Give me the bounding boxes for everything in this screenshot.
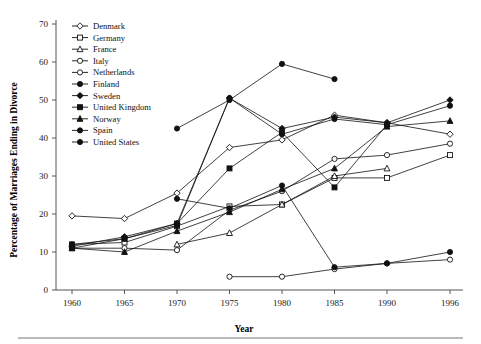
- y-tick-label: 30: [39, 171, 49, 181]
- legend-item-italy[interactable]: Italy: [72, 56, 109, 66]
- legend-marker: [77, 139, 82, 144]
- legend-item-denmark[interactable]: Denmark: [72, 21, 126, 31]
- legend-item-spain[interactable]: Spain: [72, 125, 113, 135]
- legend-item-united-kingdom[interactable]: United Kingdom: [72, 102, 151, 112]
- y-tick-label: 0: [44, 285, 49, 295]
- legend-marker: [77, 92, 83, 98]
- legend-item-germany[interactable]: Germany: [72, 33, 126, 43]
- legend-label: Norway: [93, 114, 121, 124]
- x-axis-title: Year: [235, 324, 255, 334]
- series-spain: [174, 183, 452, 270]
- legend-marker: [77, 58, 82, 63]
- legend-label: Italy: [93, 56, 109, 66]
- legend-label: Netherlands: [93, 67, 135, 77]
- legend-label: United Kingdom: [93, 102, 151, 112]
- x-tick-label: 1990: [378, 298, 397, 308]
- legend-marker: [77, 81, 82, 86]
- x-tick-label: 1970: [168, 298, 187, 308]
- y-tick-label: 60: [39, 57, 49, 67]
- legend-item-sweden[interactable]: Sweden: [72, 91, 121, 101]
- legend-marker: [77, 70, 82, 75]
- legend-label: Spain: [93, 125, 113, 135]
- legend-label: United States: [93, 137, 140, 147]
- series-germany: [70, 153, 453, 247]
- legend-label: France: [93, 44, 117, 54]
- y-axis-title: Percentage of Marriages Ending in Divorc…: [9, 82, 19, 258]
- x-tick-label: 1965: [116, 298, 135, 308]
- plot-area: [69, 61, 453, 279]
- legend-item-netherlands[interactable]: Netherlands: [72, 67, 135, 77]
- x-tick-label: 1960: [63, 298, 82, 308]
- legend-item-united-states[interactable]: United States: [72, 137, 140, 147]
- chart-legend: DenmarkGermanyFranceItalyNetherlandsFinl…: [72, 21, 151, 147]
- series-united-states: [174, 61, 337, 131]
- legend-item-norway[interactable]: Norway: [72, 114, 121, 124]
- y-tick-label: 40: [39, 133, 49, 143]
- y-tick-label: 70: [39, 19, 49, 29]
- legend-item-france[interactable]: France: [72, 44, 117, 54]
- legend-marker: [77, 128, 82, 133]
- x-tick-label: 1985: [326, 298, 345, 308]
- y-tick-label: 10: [39, 247, 49, 257]
- legend-label: Germany: [93, 33, 126, 43]
- x-tick-label: 1975: [221, 298, 240, 308]
- line-chart: 0102030405060701960196519701975198019851…: [0, 0, 481, 344]
- series-finland: [69, 96, 452, 248]
- series-italy: [227, 257, 453, 279]
- legend-marker: [78, 105, 83, 110]
- series-france: [174, 165, 390, 247]
- legend-label: Finland: [93, 79, 120, 89]
- y-tick-label: 20: [39, 209, 49, 219]
- x-tick-label: 1980: [273, 298, 292, 308]
- legend-marker: [78, 35, 83, 40]
- legend-item-finland[interactable]: Finland: [72, 79, 120, 89]
- divorce-rate-figure: 0102030405060701960196519701975198019851…: [0, 0, 481, 344]
- legend-label: Denmark: [93, 21, 126, 31]
- x-tick-label: 1996: [441, 298, 460, 308]
- legend-marker: [77, 23, 83, 29]
- y-tick-label: 50: [39, 95, 49, 105]
- series-sweden: [69, 95, 453, 250]
- legend-label: Sweden: [93, 91, 121, 101]
